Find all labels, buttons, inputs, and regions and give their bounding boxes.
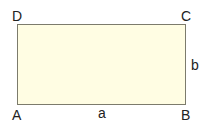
vertex-label-a: A <box>12 108 21 122</box>
vertex-label-b: B <box>181 108 190 122</box>
rectangle-abcd <box>17 24 186 105</box>
vertex-label-d: D <box>12 9 22 23</box>
vertex-label-c: C <box>181 9 191 23</box>
side-label-b: b <box>191 58 199 72</box>
side-label-a: a <box>98 106 106 120</box>
